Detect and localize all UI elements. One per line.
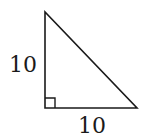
- vertical-leg-label: 10: [9, 54, 37, 76]
- triangle-shape: [45, 12, 137, 108]
- right-angle-marker: [45, 98, 55, 108]
- horizontal-leg-label: 10: [78, 115, 106, 137]
